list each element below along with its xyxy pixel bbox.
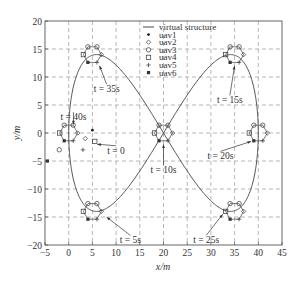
chart-canvas: −5051015202530354045 20151050−5−10−15−20… (0, 0, 301, 281)
x-tick-label: 30 (206, 248, 216, 258)
y-axis-label: y/m (11, 126, 22, 141)
x-tick-label: 0 (66, 248, 71, 258)
x-tick-label: 5 (90, 248, 95, 258)
time-annotation: t = 5s (120, 235, 141, 245)
x-tick-label: 25 (182, 248, 192, 258)
y-tick-label: 15 (33, 45, 43, 55)
formation-hexagon (81, 45, 103, 65)
x-axis-ticks: −5051015202530354045 (40, 242, 287, 258)
y-tick-label: −5 (32, 157, 42, 167)
legend: virtual structureuav1uav2uav3uav4uav5uav… (143, 22, 216, 78)
legend-item: uav6 (159, 68, 177, 78)
y-tick-label: 20 (33, 17, 43, 27)
x-axis-label: x/m (155, 261, 170, 272)
y-tick-label: −10 (27, 185, 42, 195)
x-tick-label: 45 (277, 248, 287, 258)
y-tick-label: 0 (37, 129, 42, 139)
formation-hexagon (223, 45, 245, 65)
time-annotation: t = 25s (193, 235, 219, 245)
y-tick-label: −15 (27, 213, 42, 223)
x-tick-label: 20 (159, 248, 169, 258)
x-tick-label: 40 (254, 248, 264, 258)
x-tick-label: 10 (111, 248, 121, 258)
time-annotation: t = 10s (151, 165, 177, 175)
time-annotation: t = 15s (217, 95, 243, 105)
y-tick-label: 5 (37, 101, 42, 111)
time-annotation: t = 40s (60, 112, 86, 122)
y-tick-label: −20 (27, 241, 42, 251)
initial-positions (46, 129, 97, 163)
x-tick-label: 35 (230, 248, 240, 258)
time-annotation: t = 35s (94, 84, 120, 94)
y-tick-label: 10 (33, 73, 43, 83)
time-annotation: t = 0 (107, 146, 125, 156)
time-annotation: t = 20s (207, 151, 233, 161)
x-tick-label: 15 (135, 248, 145, 258)
